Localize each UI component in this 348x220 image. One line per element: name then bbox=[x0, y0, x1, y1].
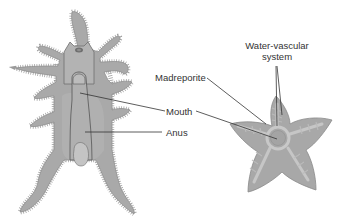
label-madreporite: Madreporite bbox=[155, 72, 206, 83]
label-water-vascular-system: Water-vascular system bbox=[245, 40, 309, 62]
diagram-canvas: Madreporite Mouth Anus Water-vascular sy… bbox=[0, 0, 348, 220]
label-water-vascular-line2: system bbox=[245, 51, 309, 62]
label-mouth: Mouth bbox=[166, 106, 192, 117]
label-water-vascular-line1: Water-vascular bbox=[245, 40, 309, 51]
larva-illustration bbox=[16, 12, 134, 214]
label-anus: Anus bbox=[166, 127, 188, 138]
sea-star-illustration bbox=[230, 96, 332, 192]
